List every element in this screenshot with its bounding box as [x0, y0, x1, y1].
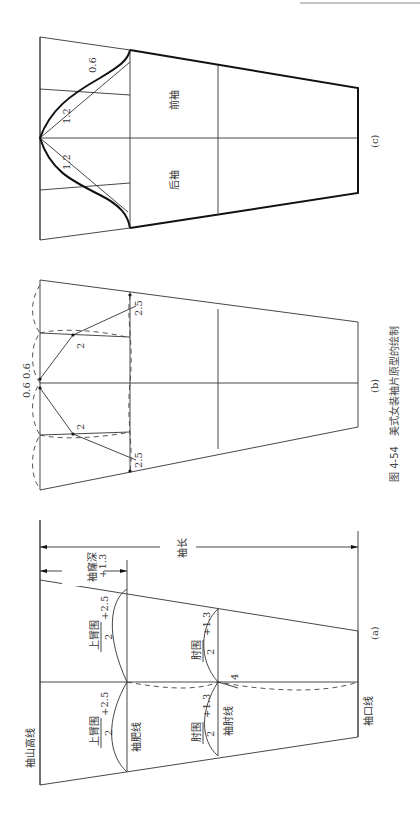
panel-b-construction-front — [40, 306, 136, 379]
panel-b-top-offsets: 0.6 0.6 — [21, 363, 32, 398]
panel-a-upper-arm-back-add: +2.5 — [99, 692, 110, 716]
panel-c-quarter-line-front — [40, 89, 130, 95]
panel-a-arc-elbow-back — [205, 682, 219, 756]
panel-b-point-top-1 — [38, 377, 41, 380]
panel-a: 袖长 袖窿深 +1.3 上臂围 2 +2.5 上臂围 2 +2.5 肘围 2 +… — [24, 520, 380, 785]
panel-c-mark-0-6: 0.6 — [87, 57, 98, 73]
panel-b-mark-2-back: 2 — [75, 424, 86, 430]
panel-c-guide-diagonal-front — [40, 62, 130, 138]
panel-a-elbow-front-numerator: 肘围 — [190, 640, 202, 660]
panel-a-elbow-front-denominator: 2 — [205, 649, 216, 655]
figure-caption-number: 图 4-54 — [389, 446, 400, 482]
panel-c-sleeve-cap-curve — [40, 50, 130, 228]
panel-b-mark-2-front: 2 — [75, 343, 86, 349]
panel-a-upper-arm-back-numerator: 上臂围 — [88, 716, 100, 746]
panel-a-upper-arm-back-denominator: 2 — [103, 730, 114, 736]
panel-a-arc-upper-front — [112, 589, 127, 682]
panel-b-dashed-cap-curve — [33, 285, 41, 488]
panel-a-armhole-depth-add: +1.3 — [97, 554, 108, 578]
panel-b-point-front — [71, 333, 74, 336]
panel-b-outline — [40, 280, 358, 490]
panel-a-elbow-line-label: 袖肘线 — [222, 706, 234, 736]
panel-b-point-top-2 — [38, 386, 41, 389]
panel-a-upper-arm-front-numerator: 上臂围 — [88, 620, 100, 650]
sleeve-pattern-figure: 0.6 1.2 1.2 前袖 后袖 (c) 0.6 0.6 2 2 2.5 2.… — [0, 0, 420, 822]
panel-a-elbow-offset-label: 4 — [229, 674, 240, 680]
panel-c: 0.6 1.2 1.2 前袖 后袖 (c) — [40, 37, 380, 240]
panel-b-mark-2-5-back: 2.5 — [133, 452, 144, 468]
panel-a-elbow-back-numerator: 肘围 — [190, 722, 202, 742]
panel-a-arrow-left — [40, 545, 47, 549]
panel-a-label: (a) — [369, 626, 380, 640]
panel-a-armhole-arrow-left — [40, 569, 47, 573]
panel-a-cuff-line-label: 袖口线 — [362, 696, 374, 726]
panel-c-mark-1-2-back: 1.2 — [61, 154, 72, 170]
panel-a-arc-upper-back — [112, 682, 127, 772]
panel-b-label: (b) — [369, 379, 380, 393]
panel-c-sleeve-outline — [130, 50, 358, 228]
panel-b-point-back — [71, 432, 74, 435]
panel-c-back-sleeve-label: 后袖 — [168, 170, 180, 190]
panel-a-biceps-line-label: 袖肥线 — [130, 722, 142, 752]
panel-b-construction-back — [40, 388, 136, 460]
panel-a-elbow-back-denominator: 2 — [205, 731, 216, 737]
panel-c-front-sleeve-label: 前袖 — [168, 90, 180, 110]
figure-caption-title: 美式女装袖片原型的绘制 — [388, 326, 400, 436]
panel-b: 0.6 0.6 2 2 2.5 2.5 (b) — [21, 280, 380, 490]
panel-c-label: (c) — [369, 134, 380, 148]
panel-a-elbow-back-add: +1.3 — [201, 694, 212, 718]
panel-a-armhole-arrow-right — [120, 569, 127, 573]
panel-a-arrow-right — [351, 545, 358, 549]
panel-a-upper-arm-front-add: +2.5 — [99, 596, 110, 620]
panel-a-elbow-front-add: +1.3 — [201, 612, 212, 636]
panel-a-upper-arm-front-denominator: 2 — [103, 634, 114, 640]
panel-a-dashed-sleeve-seam — [127, 682, 358, 690]
panel-c-mark-1-2-front: 1.2 — [61, 108, 72, 124]
panel-c-guide-diagonal-back — [40, 138, 128, 212]
panel-b-mark-2-5-front: 2.5 — [133, 300, 144, 316]
panel-a-sleeve-length-label: 袖长 — [176, 538, 188, 558]
panel-a-cap-height-line-label: 袖山高线 — [24, 728, 36, 768]
